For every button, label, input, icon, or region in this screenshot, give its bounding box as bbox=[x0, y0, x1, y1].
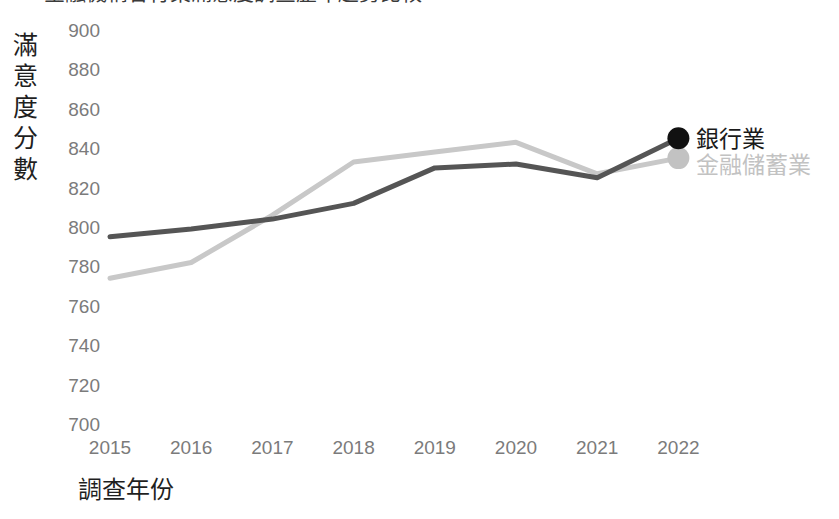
x-axis-tick-labels: 20152016201720182019202020212022 bbox=[0, 437, 839, 461]
legend-item-bank: 銀行業 bbox=[696, 126, 765, 152]
line-series-savings bbox=[110, 142, 678, 278]
x-axis-tick-label: 2019 bbox=[390, 437, 480, 459]
x-axis-tick-label: 2016 bbox=[146, 437, 236, 459]
x-axis-tick-label: 2017 bbox=[227, 437, 317, 459]
end-marker-bank bbox=[667, 127, 689, 149]
legend-item-savings: 金融儲蓄業 bbox=[696, 152, 811, 178]
end-marker-savings bbox=[667, 147, 689, 169]
x-axis-title: 調查年份 bbox=[78, 475, 174, 505]
line-series-bank bbox=[110, 138, 678, 237]
x-axis-tick-label: 2021 bbox=[552, 437, 642, 459]
x-axis-tick-label: 2018 bbox=[309, 437, 399, 459]
line-chart: 金融機構各行業滿意度調查歷年趨勢比較 滿 意 度 分 數 90088086084… bbox=[0, 0, 839, 519]
x-axis-tick-label: 2015 bbox=[65, 437, 155, 459]
x-axis-tick-label: 2020 bbox=[471, 437, 561, 459]
x-axis-tick-label: 2022 bbox=[633, 437, 723, 459]
